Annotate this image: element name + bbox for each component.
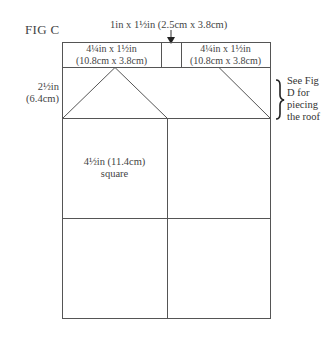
strip-right-size-in: 4¼in x 1½in	[181, 43, 270, 55]
roof-height-label: 2½in (6.4cm)	[0, 81, 59, 105]
strip-right-label: 4¼in x 1½in (10.8cm x 3.8cm)	[181, 43, 270, 67]
roof-piecing-note: See Fig D for piecing the roof	[287, 75, 320, 123]
strip-left-size-cm: (10.8cm x 3.8cm)	[62, 55, 161, 67]
note-line: See Fig	[287, 75, 320, 87]
note-line: D for	[287, 87, 320, 99]
note-line: the roof	[287, 111, 320, 123]
roof-section	[63, 68, 271, 119]
square-size-label: 4½in (11.4cm) square	[62, 156, 167, 180]
brace-icon	[276, 80, 284, 119]
strip-left-size-in: 4¼in x 1½in	[62, 43, 161, 55]
strip-left-label: 4¼in x 1½in (10.8cm x 3.8cm)	[62, 43, 161, 67]
roof-diagonal-right	[219, 68, 270, 119]
quilt-block-drawing	[0, 0, 334, 337]
roof-height-in: 2½in	[0, 81, 59, 93]
square-size: 4½in (11.4cm)	[62, 156, 167, 168]
note-line: piecing	[287, 99, 320, 111]
square-grid	[63, 119, 271, 319]
roof-triangle	[63, 68, 167, 119]
strip-right-size-cm: (10.8cm x 3.8cm)	[181, 55, 270, 67]
callout-arrow-icon	[167, 30, 175, 44]
square-word: square	[62, 168, 167, 180]
roof-height-cm: (6.4cm)	[0, 93, 59, 105]
